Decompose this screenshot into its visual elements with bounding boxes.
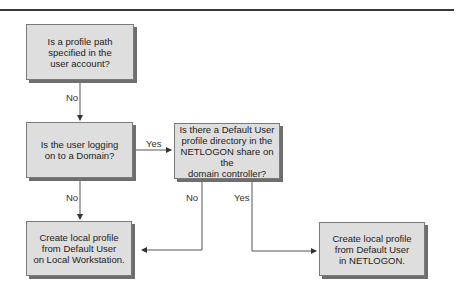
node-netlogon-default-user-question: Is there a Default User profile director… xyxy=(174,123,280,179)
edge-label-q2-yes: Yes xyxy=(146,139,162,149)
node-text: Is a profile path specified in the user … xyxy=(48,36,113,69)
node-text: Is there a Default User profile director… xyxy=(179,124,275,179)
edge-label-q3-no: No xyxy=(186,193,198,203)
edge-label-q1-no: No xyxy=(66,93,78,103)
node-create-local-profile-workstation: Create local profile from Default User o… xyxy=(26,221,132,276)
node-domain-logon-question: Is the user logging on to a Domain? xyxy=(26,122,133,178)
node-text: Create local profile from Default User o… xyxy=(33,232,124,265)
node-text: Create local profile from Default User i… xyxy=(332,233,411,266)
node-text: Is the user logging on to a Domain? xyxy=(41,139,119,161)
node-profile-path-question: Is a profile path specified in the user … xyxy=(26,24,134,80)
node-create-local-profile-netlogon: Create local profile from Default User i… xyxy=(319,222,425,276)
edge-label-q2-no: No xyxy=(66,193,78,203)
edge-label-q3-yes: Yes xyxy=(234,193,250,203)
